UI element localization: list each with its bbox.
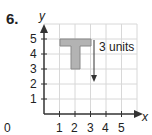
down-arrow-icon	[91, 75, 97, 82]
svg-text:5: 5	[118, 121, 125, 135]
arrow-label: 3 units	[99, 40, 134, 54]
svg-text:1: 1	[30, 92, 37, 106]
svg-text:5: 5	[30, 32, 37, 46]
svg-text:3: 3	[87, 121, 94, 135]
svg-text:2: 2	[71, 121, 78, 135]
coordinate-grid: 3 units x y 0 12 34 5 54 32 1	[0, 0, 152, 135]
svg-text:3: 3	[30, 62, 37, 76]
svg-text:x: x	[141, 110, 149, 124]
svg-text:0: 0	[4, 121, 11, 135]
svg-text:2: 2	[30, 77, 37, 91]
svg-text:1: 1	[56, 121, 63, 135]
svg-text:y: y	[38, 9, 46, 23]
diagram: 6. 3 units x y 0 12 34 5 54 32 1	[0, 0, 152, 135]
svg-text:4: 4	[102, 121, 109, 135]
svg-text:4: 4	[30, 47, 37, 61]
